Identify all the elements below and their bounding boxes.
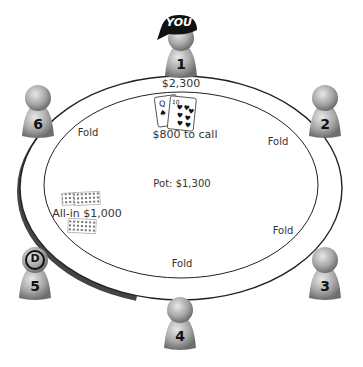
you-badge: YOU xyxy=(161,16,197,29)
hero-stack: $2,300 xyxy=(162,77,201,90)
seat-2-status: Fold xyxy=(268,136,289,147)
seat-1-pawn[interactable]: YOU 1 xyxy=(161,18,201,80)
hero-hole-cards: Q ♠ 10 ♥ ♥ ♥ ♥ ♥ ♥ ♥ xyxy=(154,94,196,131)
seat-number: 4 xyxy=(160,328,200,344)
dealer-button-icon: D xyxy=(24,249,46,271)
hero-action: $800 to call xyxy=(153,128,218,141)
you-cap-icon: YOU xyxy=(155,14,205,42)
seat-number: 1 xyxy=(161,56,201,72)
seat-number: 2 xyxy=(305,116,345,132)
svg-text:♠: ♠ xyxy=(159,108,167,118)
seat-3-pawn[interactable]: 3 xyxy=(305,240,345,302)
seat-number: 3 xyxy=(305,278,345,294)
seat-number: 5 xyxy=(15,278,55,294)
seat-number: 6 xyxy=(18,116,58,132)
svg-text:♥: ♥ xyxy=(176,120,183,129)
pot-label: Pot: $1,300 xyxy=(153,178,210,189)
seat-5-status: All-in $1,000 xyxy=(52,207,122,220)
seat-5-pawn[interactable]: D 5 xyxy=(15,240,55,302)
seat-4-status: Fold xyxy=(172,258,193,269)
seat-2-pawn[interactable]: 2 xyxy=(305,78,345,140)
seat-3-status: Fold xyxy=(273,225,294,236)
seat-6-status: Fold xyxy=(78,127,99,138)
seat-4-pawn[interactable]: 4 xyxy=(160,290,200,352)
seat-6-pawn[interactable]: 6 xyxy=(18,78,58,140)
